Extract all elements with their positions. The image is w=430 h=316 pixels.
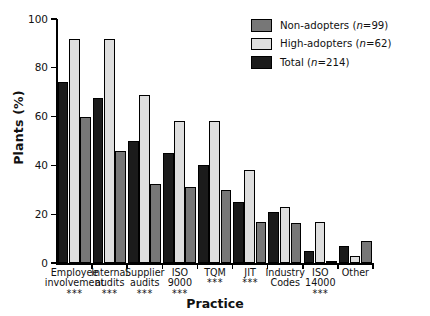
bar-high [69, 39, 80, 263]
legend-swatch-high [251, 38, 272, 51]
bar-group [128, 19, 162, 263]
y-axis-tick-label: 20 [17, 209, 48, 220]
legend-label-high: High-adopters (n=62) [280, 38, 391, 49]
legend-label-total: Total (n=214) [280, 57, 349, 68]
x-axis-line [56, 263, 373, 265]
legend-series-name: Total [280, 57, 304, 68]
y-axis-tick [51, 67, 57, 68]
bar-total [233, 202, 244, 263]
legend-series-name: High-adopters [280, 38, 352, 49]
bar-total [198, 165, 209, 263]
bar-total [163, 153, 174, 263]
bar-group [163, 19, 197, 263]
bar-non [221, 190, 232, 263]
legend-label-non: Non-adopters (n=99) [280, 20, 388, 31]
legend-n-value: =99) [363, 20, 388, 31]
bar-high [244, 170, 255, 263]
legend-swatch-non [251, 19, 272, 32]
bar-total [339, 246, 350, 263]
bar-high [174, 121, 185, 263]
chart-legend: Non-adopters (n=99)High-adopters (n=62)T… [251, 16, 391, 72]
legend-n-value: =214) [317, 57, 349, 68]
bar-high [280, 207, 291, 263]
y-axis-tick [51, 262, 57, 263]
bar-group [93, 19, 127, 263]
legend-paren-open: ( [304, 57, 311, 68]
bar-total [268, 212, 279, 263]
legend-item-high: High-adopters (n=62) [251, 35, 391, 54]
y-axis-tick-label: 80 [17, 62, 48, 73]
bar-high [139, 95, 150, 263]
bar-non [326, 261, 337, 263]
bar-total [58, 82, 69, 263]
legend-item-total: Total (n=214) [251, 53, 391, 72]
bar-non [361, 241, 372, 263]
x-axis-category-label: Other [323, 268, 387, 278]
bar-chart-figure: Plants (%) 020406080100 Practice Non-ado… [0, 0, 430, 316]
y-axis-tick-label: 0 [17, 258, 48, 269]
bar-total [93, 98, 104, 263]
y-axis-tick-label: 40 [17, 160, 48, 171]
y-axis-tick [51, 18, 57, 19]
bar-group [198, 19, 232, 263]
bar-group [58, 19, 92, 263]
category-label-line: Other [323, 268, 387, 278]
y-axis-tick [51, 116, 57, 117]
legend-series-name: Non-adopters [280, 20, 349, 31]
y-axis-tick-label: 60 [17, 111, 48, 122]
bar-non [150, 184, 161, 263]
y-axis-tick [51, 214, 57, 215]
bar-total [128, 141, 139, 263]
bar-high [350, 256, 361, 263]
bar-non [80, 117, 91, 263]
bar-non [185, 187, 196, 263]
bar-total [304, 251, 315, 263]
y-axis-tick-label: 100 [17, 14, 48, 25]
y-axis-tick [51, 165, 57, 166]
legend-item-non: Non-adopters (n=99) [251, 16, 391, 35]
significance-marker: *** [288, 289, 352, 299]
bar-high [104, 39, 115, 263]
significance-marker: *** [148, 289, 212, 299]
legend-swatch-total [251, 56, 272, 69]
bar-non [291, 223, 302, 263]
bar-non [256, 222, 267, 263]
bar-high [315, 222, 326, 263]
bar-non [115, 151, 126, 263]
bar-high [209, 121, 220, 263]
legend-n-value: =62) [366, 38, 391, 49]
